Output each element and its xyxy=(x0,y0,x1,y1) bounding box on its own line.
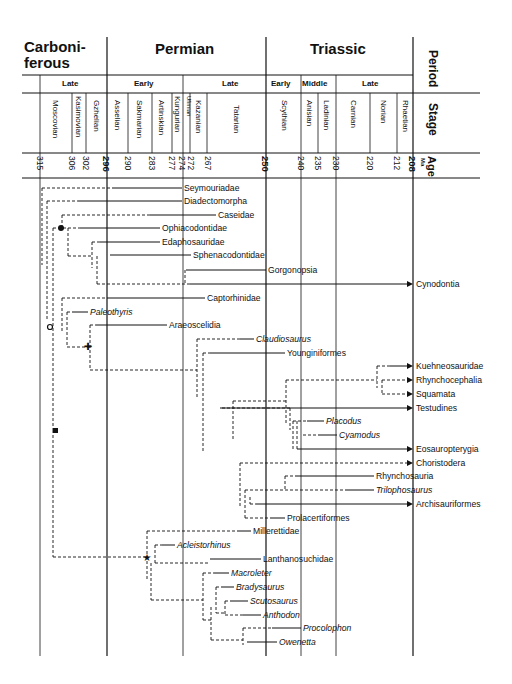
stage-row-label: Stage xyxy=(426,103,440,136)
stage-anisian: Anisian xyxy=(305,100,314,126)
taxon-label: Prolacertiformes xyxy=(287,513,350,523)
taxon-label: Placodus xyxy=(326,416,361,426)
taxon-label: Diadectomorpha xyxy=(184,196,247,206)
taxon-label: Younginiformes xyxy=(287,348,346,358)
node-square xyxy=(53,428,58,433)
age-277: 277 xyxy=(167,156,176,170)
stage-kasimovian: Kasimovian xyxy=(74,96,83,137)
age-235: 235 xyxy=(313,156,322,170)
taxon-label: Ophiacodontidae xyxy=(162,223,227,233)
taxon-label: Kuehneosauridae xyxy=(416,361,483,371)
taxon-label: Anthodon xyxy=(263,610,300,620)
node-filled-circle xyxy=(58,225,64,231)
age-267: 267 xyxy=(203,156,212,170)
stage-moscovian: Moscovian xyxy=(51,100,60,138)
taxon-label: Acleistorhinus xyxy=(177,540,231,550)
age-290: 290 xyxy=(123,156,132,170)
age-315: 315 xyxy=(35,156,44,170)
stage-gzhelian: Gzhelian xyxy=(92,100,101,132)
taxon-label: Macroleter xyxy=(231,568,272,578)
stage-kungurian: Kungurian xyxy=(173,96,182,132)
stage-artinskian: Artinskian xyxy=(157,100,166,135)
taxon-label: Captorhinidae xyxy=(207,293,261,303)
taxon-label: Claudiosaurus xyxy=(256,334,311,344)
taxon-label: Archisauriformes xyxy=(416,499,480,509)
age-212: 212 xyxy=(392,156,401,170)
taxon-label: Squamata xyxy=(416,389,455,399)
taxon-label: Rhynchosauria xyxy=(376,471,433,481)
taxon-label: Scutosaurus xyxy=(250,596,298,606)
taxon-label: Bradysaurus xyxy=(236,582,284,592)
age-240: 240 xyxy=(296,156,305,170)
subperiod-triassic-middle: Middle xyxy=(302,79,327,88)
taxon-label: Araeoscelidia xyxy=(169,320,221,330)
taxon-label: Choristodera xyxy=(416,458,465,468)
taxon-label: Procolophon xyxy=(303,623,351,633)
taxon-label: Seymouriadae xyxy=(184,183,239,193)
age-274: 274 xyxy=(177,156,186,170)
period-row-label: Period xyxy=(426,50,440,87)
age-row-label: Age xyxy=(426,156,438,177)
node-star: ★ xyxy=(143,552,152,563)
age-230: 230 xyxy=(331,156,340,170)
stage-ufimian: Ufimian xyxy=(184,96,193,116)
taxon-label: Testudines xyxy=(416,403,457,413)
stage-sakmarian: Sakmarian xyxy=(135,100,144,138)
age-302: 302 xyxy=(81,156,90,170)
age-208: 208 xyxy=(408,156,417,172)
period-triassic: Triassic xyxy=(310,40,366,57)
taxon-label: Millerettidae xyxy=(253,526,299,536)
taxon-label: Paleothyris xyxy=(90,307,133,317)
stage-tatarian: Tatarian xyxy=(232,105,241,133)
taxon-label: Eosauropterygia xyxy=(416,444,479,454)
subperiod-carboniferous-late: Late xyxy=(62,79,78,88)
age-220: 220 xyxy=(365,156,374,170)
stage-asselian: Asselian xyxy=(113,100,122,130)
age-250: 250 xyxy=(261,156,270,172)
subperiod-permian-early: Early xyxy=(134,79,154,88)
subperiod-permian-late: Late xyxy=(222,79,238,88)
taxon-label: Rhynchocephalia xyxy=(416,375,482,385)
taxon-label: Lanthanosuchidae xyxy=(263,554,333,564)
stage-norian: Norian xyxy=(379,100,388,124)
period-permian: Permian xyxy=(155,40,214,57)
taxon-label: Cynodontia xyxy=(416,279,459,289)
age-272: 272 xyxy=(186,156,195,170)
taxon-label: Sphenacodontidae xyxy=(193,250,265,260)
age-unit-label: Ma xyxy=(420,158,426,166)
taxon-label: Trilophosaurus xyxy=(376,485,432,495)
stage-carnian: Carnian xyxy=(349,100,358,128)
taxon-label: Caseidae xyxy=(218,210,254,220)
stage-kazanian: Kazanian xyxy=(194,100,203,133)
node-cross: ✚ xyxy=(84,341,92,352)
taxon-label: Edaphosauridae xyxy=(162,237,225,247)
taxon-label: Cyamodus xyxy=(339,430,380,440)
taxon-label: Gorgonopsia xyxy=(268,265,317,275)
age-306: 306 xyxy=(67,156,76,170)
age-296: 296 xyxy=(102,156,111,172)
subperiod-triassic-early: Early xyxy=(271,79,291,88)
taxon-label: Owenetta xyxy=(279,637,316,647)
stage-scythian: Scythian xyxy=(280,100,289,131)
node-open-circle xyxy=(48,325,53,330)
age-283: 283 xyxy=(147,156,156,170)
subperiod-triassic-late: Late xyxy=(362,79,378,88)
stage-rhaetian: Rhaetian xyxy=(401,100,410,132)
period-carboniferous: Carboni- ferous xyxy=(24,39,86,71)
stage-ladinian: Ladinian xyxy=(322,100,331,130)
